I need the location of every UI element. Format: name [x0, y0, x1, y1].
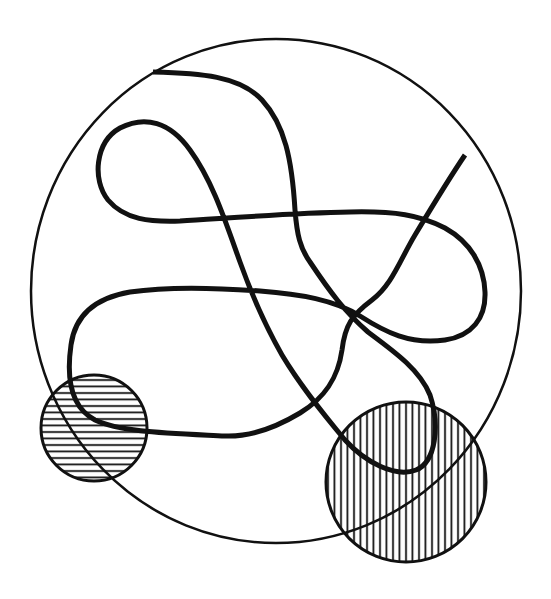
diagram-canvas [0, 0, 551, 599]
large-hatched-circle [326, 402, 486, 562]
diagram-svg [0, 0, 551, 599]
